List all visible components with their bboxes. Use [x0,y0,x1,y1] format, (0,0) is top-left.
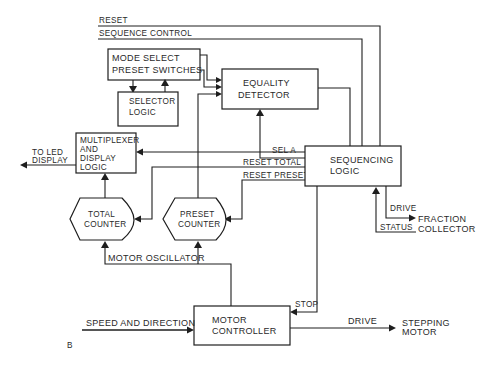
svg-text:MOTOR: MOTOR [402,327,437,337]
sel-a-label: SEL A [272,146,296,155]
fraction-collector-endpoint: FRACTION COLLECTOR [418,214,476,234]
speed-direction-label: SPEED AND DIRECTION [86,318,195,328]
svg-text:DISPLAY: DISPLAY [32,156,68,165]
total-counter-block: TOTAL COUNTER [70,198,134,240]
svg-text:MULTIPLEXER: MULTIPLEXER [80,136,140,145]
motor-controller-block: MOTOR CONTROLLER [194,306,290,345]
preset-counter-block: PRESET COUNTER [163,198,226,240]
svg-text:FRACTION: FRACTION [418,214,466,224]
multiplexer-block: MULTIPLEXER AND DISPLAY LOGIC [76,133,140,173]
speed-direction-line: SPEED AND DIRECTION [82,318,195,334]
svg-text:AND: AND [80,145,98,154]
sequence-control-label: SEQUENCE CONTROL [99,29,192,38]
stop-line: STOP [290,186,319,316]
svg-text:PRESET: PRESET [180,210,215,219]
svg-text:TOTAL: TOTAL [88,210,115,219]
svg-text:EQUALITY: EQUALITY [243,78,290,88]
svg-text:SELECTOR: SELECTOR [129,97,175,106]
svg-text:LOGIC: LOGIC [80,163,107,172]
equality-detector-block: EQUALITY DETECTOR [222,69,318,109]
sequencing-logic-block: SEQUENCING LOGIC [305,146,401,186]
drive-motor-line: DRIVE [290,316,396,332]
reset-preset-label: RESET PRESET [243,171,309,180]
svg-text:LOGIC: LOGIC [129,108,156,117]
block-diagram: RESET SEQUENCE CONTROL MODE SELECT PRESE… [0,0,484,365]
stop-label: STOP [295,300,319,309]
svg-text:SEQUENCING: SEQUENCING [330,155,394,165]
reset-total-label: RESET TOTAL [243,158,301,167]
to-led-display: TO LED DISPLAY [20,148,76,169]
svg-text:CONTROLLER: CONTROLLER [212,326,277,336]
svg-text:DISPLAY: DISPLAY [80,154,116,163]
svg-text:MOTOR: MOTOR [212,315,247,325]
drive-fraction-line: DRIVE [386,186,417,222]
svg-text:LOGIC: LOGIC [330,166,360,176]
svg-text:COLLECTOR: COLLECTOR [418,224,476,234]
svg-text:DETECTOR: DETECTOR [238,90,290,100]
drive-motor-label: DRIVE [348,316,377,326]
reset-label: RESET [99,16,128,25]
svg-text:MODE SELECT: MODE SELECT [112,53,180,63]
reset-preset-line: RESET PRESET [224,171,309,223]
figure-label: B [67,341,73,350]
sel-a-line: SEL A [256,109,305,158]
motor-oscillator-label: MOTOR OSCILLATOR [108,253,205,263]
motor-oscillator-line: MOTOR OSCILLATOR [101,241,231,316]
drive-label: DRIVE [390,204,417,213]
selector-logic-block: SELECTOR LOGIC [118,92,178,126]
svg-text:COUNTER: COUNTER [178,220,221,229]
stepping-motor-endpoint: STEPPING MOTOR [402,318,450,337]
mode-select-block: MODE SELECT PRESET SWITCHES [108,49,202,80]
svg-text:COUNTER: COUNTER [84,220,127,229]
svg-text:PRESET SWITCHES: PRESET SWITCHES [112,65,202,75]
status-label: STATUS [380,223,413,232]
